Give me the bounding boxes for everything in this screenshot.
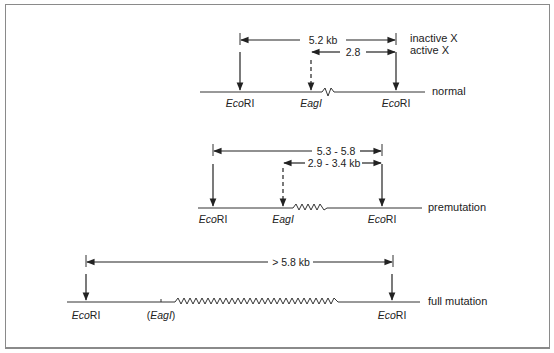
site-label-eagi: EagI — [300, 97, 322, 109]
svg-text:EcoRI: EcoRI — [368, 213, 397, 225]
svg-text:(EagI): (EagI) — [147, 309, 176, 321]
row-label-premutation: premutation — [428, 201, 486, 213]
span-label-gt-5-8kb: > 5.8 kb — [272, 256, 310, 268]
inactive-x-label: inactive X — [410, 32, 458, 44]
svg-text:EagI: EagI — [272, 213, 294, 225]
span-label-5-3-5-8: 5.3 - 5.8 — [317, 145, 356, 157]
site-label-ecori: EcoRI — [226, 97, 255, 109]
span-label-2-8: 2.8 — [346, 46, 361, 58]
dna-line-full-mutation — [67, 298, 420, 304]
site-label-ecori: EcoRI — [382, 97, 411, 109]
active-x-label: active X — [410, 44, 450, 56]
row-premutation: 5.3 - 5.8 2.9 - 3.4 kb premutation EcoRI… — [198, 144, 486, 225]
svg-text:EcoRI: EcoRI — [72, 309, 101, 321]
span-label-2-9-3-4kb: 2.9 - 3.4 kb — [308, 157, 361, 169]
row-label-full-mutation: full mutation — [428, 295, 487, 307]
row-label-normal: normal — [432, 85, 466, 97]
restriction-map-diagram: 5.2 kb 2.8 inactive X active X normal Ec… — [0, 0, 554, 353]
svg-text:EcoRI: EcoRI — [378, 309, 407, 321]
dna-line-premutation — [198, 204, 422, 210]
dna-line-normal — [200, 88, 425, 96]
svg-text:EcoRI: EcoRI — [199, 213, 228, 225]
row-full-mutation: > 5.8 kb full mutation EcoRI (EagI) EcoR… — [67, 255, 487, 321]
row-normal: 5.2 kb 2.8 inactive X active X normal Ec… — [200, 32, 466, 109]
span-label-5-2kb: 5.2 kb — [309, 34, 338, 46]
